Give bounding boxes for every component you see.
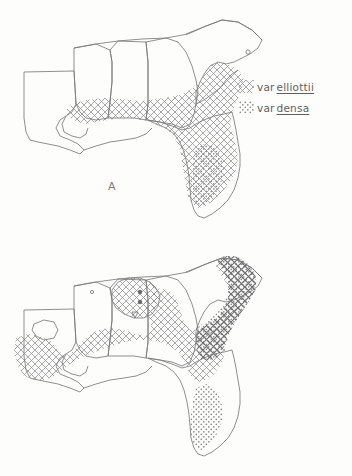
legend-item: varelliottii [239,78,314,95]
panel-label-a: A [108,180,117,193]
locality-dot-marker [138,290,142,294]
locality-dot-marker [138,300,142,304]
legend-genus: var [257,81,275,93]
legend-a: varelliottii vardensa [239,78,314,116]
map-a [0,0,352,238]
outlier-locality-marker [246,50,250,54]
crosshatch-swatch [239,80,254,93]
stipple-swatch [239,101,254,114]
legend-label: varelliottii [257,81,314,93]
legend-epithet: densa [277,102,310,114]
locality-dot-marker [90,290,93,293]
figure-distribution-maps: varelliottii vardensa A [0,0,352,476]
panel-b: Ppalustris Pserotina B [0,238,352,476]
legend-epithet: elliottii [277,81,315,93]
legend-label: vardensa [257,102,309,114]
legend-genus: var [257,102,275,114]
panel-a: varelliottii vardensa A [0,0,352,238]
legend-item: vardensa [239,99,314,116]
range-overlap [190,250,265,368]
map-b [0,238,352,476]
